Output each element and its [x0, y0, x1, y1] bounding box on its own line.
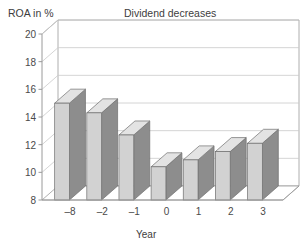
x-tick-label: –8: [55, 206, 85, 217]
x-tick-label: –1: [119, 206, 149, 217]
bar: [87, 99, 118, 200]
y-tick-label: 18: [14, 57, 36, 68]
x-tick-label: –2: [87, 206, 117, 217]
bar: [55, 89, 86, 200]
y-tick-label: 20: [14, 29, 36, 40]
x-tick-label: 3: [248, 206, 278, 217]
x-tick-label: 1: [184, 206, 214, 217]
x-tick-label: 2: [216, 206, 246, 217]
bar: [248, 129, 279, 200]
y-tick-label: 12: [14, 140, 36, 151]
bar-chart: ROA in % Dividend decreases Year 2018161…: [0, 0, 305, 247]
y-tick-label: 16: [14, 84, 36, 95]
axis-tick-marks: [39, 34, 43, 200]
x-tick-label: 0: [152, 206, 182, 217]
bar: [119, 121, 150, 200]
y-tick-label: 8: [14, 195, 36, 206]
y-tick-label: 10: [14, 167, 36, 178]
y-tick-label: 14: [14, 112, 36, 123]
